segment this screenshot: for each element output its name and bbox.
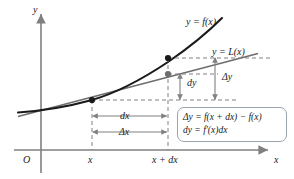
dy-label: dy (187, 78, 196, 88)
x-tick-label: x (88, 155, 92, 165)
axes-group (14, 14, 268, 173)
figure-canvas (0, 0, 294, 179)
y-axis-label: y (33, 5, 37, 15)
x-axis-label: x (274, 155, 278, 165)
formula-box: Δy = f(x + dx) − f(x) dy = f′(x)dx (177, 107, 287, 142)
x-plus-dx-tick-label: x + dx (152, 155, 178, 165)
vertical-measure-arrows (180, 58, 215, 100)
formula-dy: dy = f′(x)dx (183, 124, 281, 137)
function-curve-plot (18, 18, 222, 113)
dx-label: dx (120, 111, 129, 121)
tangent-line-label: y = L(x) (212, 47, 245, 57)
point-tangency-on-curve (89, 97, 95, 103)
point-on-tangent-at-x-plus-dx (165, 71, 171, 77)
origin-label: O (23, 155, 30, 165)
formula-delta-y: Δy = f(x + dx) − f(x) (183, 111, 281, 124)
curve-label: y = f(x) (186, 17, 216, 27)
point-on-curve-at-x-plus-dx (165, 55, 171, 61)
delta-x-label: Δx (119, 127, 129, 137)
differentials-figure: y = f(x) y = L(x) y x O x x + dx dy Δy d… (0, 0, 294, 179)
delta-y-label: Δy (222, 72, 232, 82)
horizontal-measure-arrows (93, 116, 167, 132)
